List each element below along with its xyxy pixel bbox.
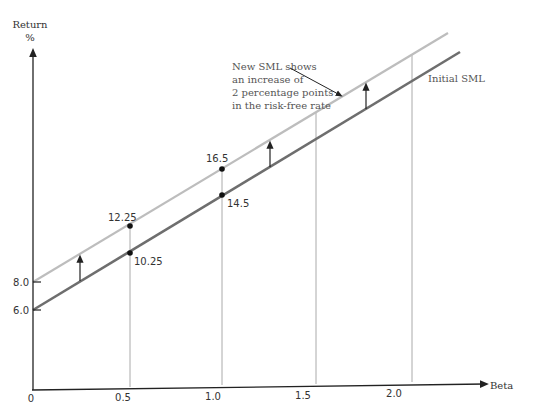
svg-text:an increase of: an increase of — [232, 74, 305, 85]
x-tick-0.5: 0.5 — [115, 392, 131, 403]
y-axis-unit: % — [25, 32, 35, 43]
data-points — [127, 166, 225, 256]
x-tick-2.0: 2.0 — [386, 388, 402, 399]
x-tick-1.5: 1.5 — [295, 390, 311, 401]
y-axis-label: Return — [12, 19, 48, 30]
point-label-16.5: 16.5 — [206, 153, 228, 164]
x-tick-1.0: 1.0 — [205, 391, 221, 402]
point-label-12.25: 12.25 — [108, 212, 137, 223]
initial-sml-label: Initial SML — [428, 73, 485, 84]
point-label-14.5: 14.5 — [227, 198, 249, 209]
point-label-10.25: 10.25 — [134, 256, 163, 267]
shift-arrows — [80, 86, 366, 281]
y-tick-6: 6.0 — [13, 305, 29, 316]
x-axis — [32, 384, 485, 390]
sml-chart: 8.0 6.0 0 0.5 1.0 1.5 2.0 Return % Beta … — [0, 0, 551, 415]
x-axis-label: Beta — [490, 380, 513, 391]
svg-text:New SML shows: New SML shows — [232, 61, 317, 72]
new-sml-annotation: New SML shows an increase of 2 percentag… — [232, 61, 333, 111]
svg-text:in the risk-free rate: in the risk-free rate — [232, 100, 331, 111]
y-tick-8: 8.0 — [13, 277, 29, 288]
x-tick-0: 0 — [28, 393, 34, 404]
svg-text:2 percentage points: 2 percentage points — [232, 87, 333, 98]
